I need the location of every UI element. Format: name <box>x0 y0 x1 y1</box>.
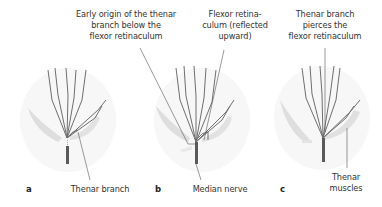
label-line: branch below the <box>76 20 176 31</box>
label-thenar-pierces: Thenar branch pierces the flexor retinac… <box>283 9 367 42</box>
label-median-nerve: Median nerve <box>184 184 256 195</box>
label-thenar-muscles: Thenar muscles <box>318 172 374 194</box>
anatomical-figure: Early origin of the thenar branch below … <box>0 0 382 207</box>
label-line: Median nerve <box>184 184 256 195</box>
label-thenar-branch: Thenar branch <box>64 184 136 195</box>
label-line: culum (reflected <box>195 20 275 31</box>
panel-a-drawing <box>20 68 116 180</box>
label-line: pierces the <box>283 20 367 31</box>
label-line: Thenar branch <box>283 9 367 20</box>
panel-letter-b: b <box>155 184 161 194</box>
label-line: Thenar <box>318 172 374 183</box>
panel-b-drawing <box>140 48 250 180</box>
label-line: Thenar branch <box>64 184 136 195</box>
label-line: upward) <box>195 31 275 42</box>
panel-letter-c: c <box>280 184 285 194</box>
label-flexor-retinaculum: Flexor retina- culum (reflected upward) <box>195 9 275 42</box>
panel-c-drawing <box>274 48 370 170</box>
label-line: Early origin of the thenar <box>76 9 176 20</box>
median-nerve-a <box>66 146 69 164</box>
median-nerve-c <box>322 138 325 162</box>
label-early-origin: Early origin of the thenar branch below … <box>76 9 176 42</box>
retinaculum-flap-c <box>302 140 312 143</box>
panel-letter-a: a <box>26 184 32 194</box>
label-line: Flexor retina- <box>195 9 275 20</box>
label-line: muscles <box>318 183 374 194</box>
label-line: flexor retinaculum <box>76 31 176 42</box>
label-line: flexor retinaculum <box>283 31 367 42</box>
median-nerve-b <box>195 142 198 164</box>
